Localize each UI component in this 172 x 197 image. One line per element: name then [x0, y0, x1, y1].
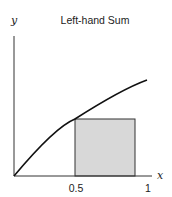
x-tick-half: 0.5 — [69, 182, 84, 194]
x-axis-label: x — [157, 169, 164, 182]
x-tick-one: 1 — [145, 182, 151, 194]
chart-title: Left-hand Sum — [61, 14, 130, 26]
y-axis-label: y — [10, 14, 18, 27]
riemann-rectangle — [75, 119, 135, 176]
left-hand-sum-diagram: Left-hand Sum y x 0.5 1 — [0, 0, 172, 197]
